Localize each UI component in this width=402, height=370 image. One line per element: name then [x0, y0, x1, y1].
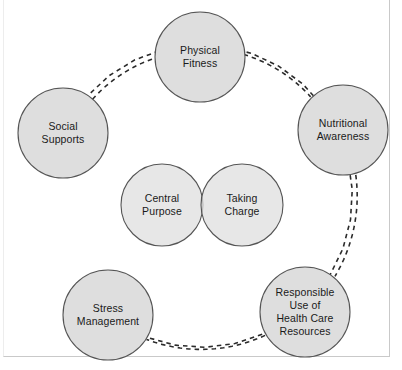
circles-group [18, 12, 388, 360]
node-circle-stress-management[interactable] [63, 270, 153, 360]
diagram-canvas [0, 0, 402, 370]
node-circle-central-purpose[interactable] [121, 164, 203, 246]
node-circle-responsible-use-of-health-care-resources[interactable] [260, 267, 350, 357]
node-circle-social-supports[interactable] [18, 88, 108, 178]
connector-nutritional-awareness-to-responsible-use [335, 175, 357, 276]
node-circle-physical-fitness[interactable] [155, 12, 245, 102]
connector-responsible-use-to-stress-management [146, 335, 265, 349]
connector-physical-fitness-to-nutritional-awareness [244, 54, 311, 96]
wellness-diagram: PhysicalFitnessNutritionalAwarenessRespo… [0, 0, 402, 370]
connector-social-supports-to-physical-fitness [93, 57, 158, 99]
node-circle-nutritional-awareness[interactable] [298, 85, 388, 175]
node-circle-taking-charge[interactable] [201, 164, 283, 246]
